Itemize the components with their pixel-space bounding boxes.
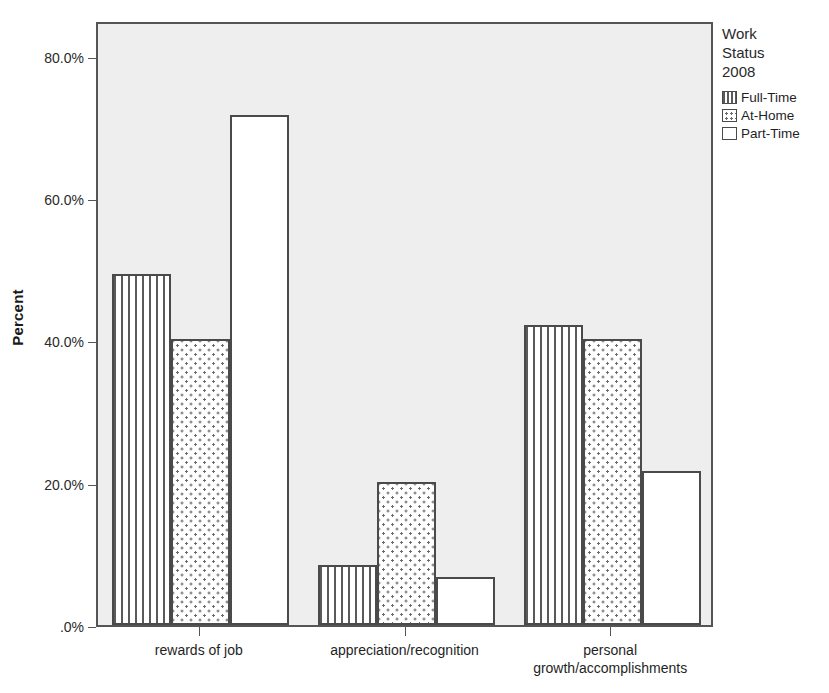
legend: Work Status 2008 Full-TimeAt-HomePart-Ti… — [722, 24, 827, 144]
y-axis-title: Percent — [9, 263, 26, 373]
legend-swatch-dotted — [722, 109, 737, 122]
x-axis-tick-mark — [199, 627, 200, 636]
legend-entry[interactable]: Part-Time — [722, 126, 827, 141]
legend-entry[interactable]: Full-Time — [722, 90, 827, 105]
legend-label: Full-Time — [741, 90, 797, 105]
y-axis-tick-label: .0% — [8, 620, 84, 634]
bar-group-container — [98, 24, 711, 625]
x-axis-tick-mark — [610, 627, 611, 636]
y-axis-tick-mark — [88, 200, 96, 201]
y-axis-tick-mark — [88, 627, 96, 628]
plot-area — [96, 22, 713, 627]
y-axis-tick-mark — [88, 485, 96, 486]
y-axis-tick-label: 80.0% — [8, 51, 84, 65]
legend-label: Part-Time — [741, 126, 800, 141]
y-axis-tick-label: 60.0% — [8, 193, 84, 207]
x-axis-tick-mark — [405, 627, 406, 636]
legend-label: At-Home — [741, 108, 794, 123]
legend-entry-list: Full-TimeAt-HomePart-Time — [722, 90, 827, 141]
bar-full-time[interactable] — [524, 325, 583, 625]
legend-swatch-empty — [722, 127, 737, 140]
bar-part-time[interactable] — [642, 471, 701, 625]
y-axis-tick-mark — [88, 342, 96, 343]
legend-title: Work Status 2008 — [722, 24, 827, 81]
x-axis-category-label: personalgrowth/accomplishments — [485, 641, 735, 677]
y-axis-tick-label: 20.0% — [8, 478, 84, 492]
y-axis-tick-label: 40.0% — [8, 335, 84, 349]
bar-group — [98, 24, 711, 625]
bar-at-home[interactable] — [583, 339, 642, 625]
legend-entry[interactable]: At-Home — [722, 108, 827, 123]
legend-swatch-striped — [722, 91, 737, 104]
y-axis-tick-mark — [88, 58, 96, 59]
bar-chart: Percent 80.0%60.0%40.0%20.0%.0% rewards … — [0, 0, 829, 693]
